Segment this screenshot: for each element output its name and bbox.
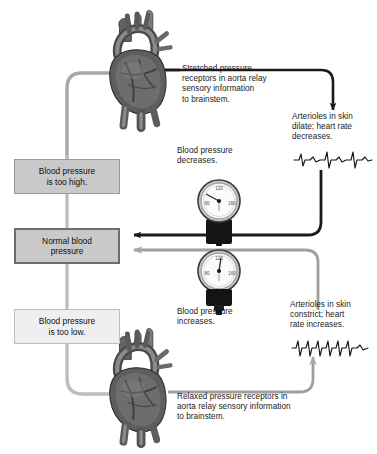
ecg-fast-trace	[292, 341, 368, 356]
box-normal-blood-pressure[interactable]: Normal blood pressure	[14, 228, 120, 264]
box-blood-pressure-too-low[interactable]: Blood pressure is too low.	[14, 309, 120, 344]
label-arterioles-dilate: Arterioles in skin dilate; heart rate de…	[292, 112, 374, 143]
ecg-slow-trace	[294, 152, 372, 168]
gauge-upper-tick-80: 80	[204, 201, 210, 206]
heart-top-illustration	[110, 10, 171, 127]
gauge-upper-tick-160: 160	[228, 201, 236, 206]
label-stretched-receptors: Stretched pressure receptors in aorta re…	[182, 64, 300, 105]
label-blood-pressure-decreases: Blood pressure decreases.	[177, 146, 263, 166]
heart-bottom-illustration	[110, 328, 171, 443]
sphygmomanometer-lower: 120 80 160	[198, 228, 240, 315]
label-relaxed-receptors: Relaxed pressure receptors in aorta rela…	[177, 392, 349, 423]
gauge-lower-tick-120: 120	[215, 256, 223, 261]
gauge-lower-tick-160: 160	[228, 271, 236, 276]
gauge-lower-tick-80: 80	[204, 271, 210, 276]
box-blood-pressure-too-high[interactable]: Blood pressure is too high.	[14, 159, 120, 194]
diagram-canvas: 120 80 160 120 80 160	[0, 0, 377, 454]
label-blood-pressure-increases: Blood pressure increases.	[177, 307, 263, 327]
label-arterioles-constrict: Arterioles in skin constrict; heart rate…	[290, 300, 374, 331]
path-heart-to-constrict	[168, 357, 313, 392]
gauge-upper-tick-120: 120	[215, 186, 223, 191]
